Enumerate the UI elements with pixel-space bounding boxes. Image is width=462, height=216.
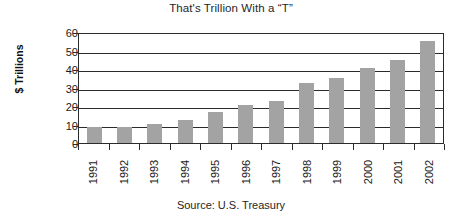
x-tick-mark bbox=[261, 144, 262, 150]
x-label-slot: 2001 bbox=[383, 152, 414, 196]
x-label-slot: 2000 bbox=[353, 152, 384, 196]
bar-slot bbox=[413, 34, 443, 143]
x-label-slot: 1997 bbox=[261, 152, 292, 196]
x-label-slot: 1993 bbox=[139, 152, 170, 196]
x-tick-label-2002: 2002 bbox=[423, 160, 434, 184]
x-tick-mark bbox=[444, 144, 445, 150]
bar-1993 bbox=[147, 124, 162, 143]
bar-slot bbox=[231, 34, 261, 143]
x-tick-label-1998: 1998 bbox=[301, 160, 312, 184]
bar-1995 bbox=[208, 112, 223, 143]
x-tick-label-1995: 1995 bbox=[210, 160, 221, 184]
x-tick-mark bbox=[414, 144, 415, 150]
x-tick-label-1993: 1993 bbox=[149, 160, 160, 184]
x-tick-label-2000: 2000 bbox=[362, 160, 373, 184]
x-tick-label-1992: 1992 bbox=[118, 160, 129, 184]
bar-slot bbox=[109, 34, 139, 143]
bar-1994 bbox=[178, 120, 193, 143]
bar-1999 bbox=[329, 78, 344, 143]
x-label-slot: 1998 bbox=[292, 152, 323, 196]
x-label-slot: 1991 bbox=[78, 152, 109, 196]
chart-title: That's Trillion With a “T” bbox=[0, 0, 462, 16]
bar-slot bbox=[322, 34, 352, 143]
x-tick-mark bbox=[170, 144, 171, 150]
bar-slot bbox=[79, 34, 109, 143]
x-tick-label-1994: 1994 bbox=[179, 160, 190, 184]
x-label-slot: 1995 bbox=[200, 152, 231, 196]
x-label-slot: 2002 bbox=[414, 152, 445, 196]
x-tick-mark bbox=[139, 144, 140, 150]
x-tick-mark bbox=[292, 144, 293, 150]
x-tick-mark bbox=[383, 144, 384, 150]
x-label-slot: 1992 bbox=[109, 152, 140, 196]
x-label-slot: 1999 bbox=[322, 152, 353, 196]
bar-1991 bbox=[87, 127, 102, 143]
bar-slot bbox=[261, 34, 291, 143]
bar-2001 bbox=[390, 60, 405, 143]
bar-slot bbox=[140, 34, 170, 143]
x-label-slot: 1994 bbox=[170, 152, 201, 196]
x-tick-mark bbox=[231, 144, 232, 150]
bar-slot bbox=[352, 34, 382, 143]
y-axis-title: $ Trillions bbox=[13, 24, 25, 114]
bar-1992 bbox=[117, 127, 132, 143]
bar-1997 bbox=[269, 101, 284, 143]
x-axis-ticks bbox=[78, 144, 444, 150]
x-tick-label-1997: 1997 bbox=[271, 160, 282, 184]
x-tick-mark bbox=[78, 144, 79, 150]
x-tick-label-1999: 1999 bbox=[332, 160, 343, 184]
x-tick-mark bbox=[109, 144, 110, 150]
x-tick-label-1991: 1991 bbox=[88, 160, 99, 184]
bar-2002 bbox=[420, 41, 435, 143]
bar-series bbox=[79, 34, 443, 143]
x-tick-mark bbox=[200, 144, 201, 150]
x-tick-label-2001: 2001 bbox=[393, 160, 404, 184]
x-tick-mark bbox=[322, 144, 323, 150]
bar-slot bbox=[291, 34, 321, 143]
source-note: Source: U.S. Treasury bbox=[0, 199, 462, 212]
bar-1998 bbox=[299, 83, 314, 143]
x-tick-label-1996: 1996 bbox=[240, 160, 251, 184]
plot-area bbox=[78, 33, 444, 144]
bar-2000 bbox=[360, 68, 375, 143]
x-label-slot: 1996 bbox=[231, 152, 262, 196]
bar-slot bbox=[200, 34, 230, 143]
bar-slot bbox=[170, 34, 200, 143]
x-tick-mark bbox=[353, 144, 354, 150]
bar-1996 bbox=[238, 105, 253, 143]
x-axis-labels: 1991199219931994199519961997199819992000… bbox=[78, 152, 444, 196]
chart-figure: That's Trillion With a “T” $ Trillions 6… bbox=[0, 0, 462, 216]
bar-slot bbox=[382, 34, 412, 143]
y-axis-ticks: 6050403020100 bbox=[36, 33, 78, 144]
